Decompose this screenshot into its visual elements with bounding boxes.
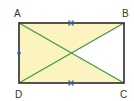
point-mark-ad-icon: [17, 51, 21, 55]
rectangle-diagram: A B C D: [0, 0, 134, 101]
vertex-label-c: C: [120, 89, 127, 100]
vertex-label-a: A: [14, 8, 21, 19]
vertex-label-b: B: [122, 8, 129, 19]
vertex-label-d: D: [15, 89, 22, 100]
